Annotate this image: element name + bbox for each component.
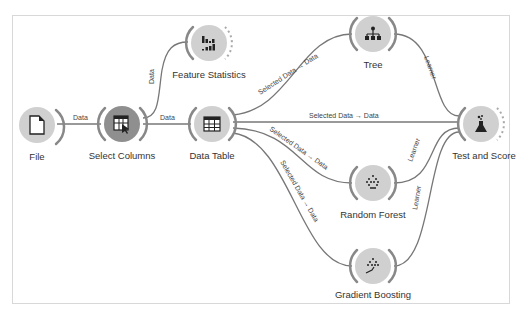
tree-icon [355, 16, 391, 52]
edge-label: Data [73, 114, 88, 121]
bar-chart-icon [191, 25, 227, 61]
edge-label: Selected Data → Data [268, 125, 329, 171]
edge-label: Selected Data → Data [257, 52, 319, 96]
node-gradient-boosting[interactable] [353, 246, 393, 286]
select-columns-icon [104, 106, 140, 142]
edge-label: Selected Data → Data [309, 112, 379, 119]
node-test-and-score[interactable] [461, 104, 501, 144]
node-feature-statistics[interactable] [189, 23, 229, 63]
node-label: Tree [363, 59, 382, 70]
node-label: Feature Statistics [172, 69, 245, 80]
gradient-boosting-icon [355, 248, 391, 284]
flask-icon [463, 106, 499, 142]
forest-icon [355, 165, 391, 201]
node-label: Select Columns [89, 150, 156, 161]
file-icon [19, 107, 55, 143]
edge-label: Learner [423, 55, 438, 81]
edge-label: Learner [411, 185, 422, 211]
node-label: File [29, 151, 44, 162]
node-label: Data Table [189, 150, 234, 161]
edge-label: Learner [406, 137, 421, 163]
node-file[interactable] [17, 105, 57, 145]
node-data-table[interactable] [192, 104, 232, 144]
link-data-table-gradient-boosting[interactable] [233, 133, 352, 266]
node-random-forest[interactable] [353, 163, 393, 203]
node-select-columns[interactable] [102, 104, 142, 144]
link-gradient-boosting-test-and-score[interactable] [394, 132, 459, 266]
table-icon [194, 106, 230, 142]
link-tree-test-and-score[interactable] [394, 34, 459, 116]
node-label: Test and Score [452, 150, 515, 161]
edge-label: Data [148, 69, 155, 84]
node-label: Gradient Boosting [335, 289, 411, 300]
links-layer: Data Data Data Selected Data → Data Sele… [0, 0, 523, 317]
edge-label: Data [160, 114, 175, 121]
node-label: Random Forest [340, 209, 405, 220]
node-tree[interactable] [353, 14, 393, 54]
